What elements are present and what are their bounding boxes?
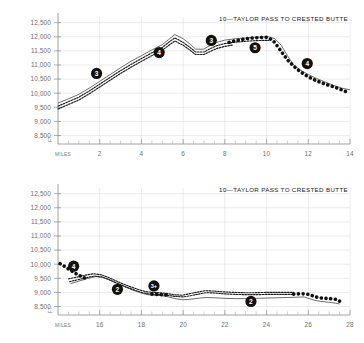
y-tick-label: 12,000 (31, 204, 52, 211)
x-tick-label: 8 (223, 150, 227, 157)
difficulty-marker[interactable]: 3+ (148, 280, 159, 291)
y-tick-label: 9,000 (34, 118, 51, 125)
difficulty-marker[interactable]: 4 (154, 47, 165, 58)
difficulty-marker-label: 5 (253, 44, 257, 51)
difficulty-marker-label: 2 (249, 298, 253, 305)
chart-svg-bottom: 12,50012,00011,50011,00010,50010,0009,50… (0, 171, 364, 343)
difficulty-marker[interactable]: 4 (68, 261, 79, 272)
profile-series-route-dotted-end (294, 294, 340, 301)
chart-title: 10—TAYLOR PASS TO CRESTED BUTTE (219, 186, 348, 193)
difficulty-marker[interactable]: 3 (206, 35, 217, 46)
y-tick-label: 10,500 (31, 75, 52, 82)
difficulty-marker[interactable]: 2 (245, 296, 256, 307)
elevation-profile-page: 12,50012,00011,50011,00010,50010,0009,50… (0, 0, 364, 343)
y-tick-label: 10,000 (31, 261, 52, 268)
y-tick-label: 11,500 (31, 47, 51, 54)
profile-series-ridge-lower-dashed (58, 41, 233, 109)
y-tick-label: 12,500 (31, 190, 52, 197)
y-tick-label: 9,000 (34, 289, 51, 296)
difficulty-marker-label: 2 (116, 286, 120, 293)
y-axis-unit-label: FT. (48, 135, 53, 142)
x-tick-label: 24 (263, 321, 271, 328)
difficulty-marker[interactable]: 5 (250, 42, 261, 53)
x-axis-unit-label: MILES (55, 323, 71, 328)
difficulty-marker[interactable]: 4 (302, 58, 313, 69)
x-tick-label: 10 (263, 150, 271, 157)
y-tick-label: 9,500 (34, 104, 51, 111)
y-tick-label: 10,000 (31, 90, 52, 97)
difficulty-marker[interactable]: 2 (112, 284, 123, 295)
y-tick-label: 11,000 (31, 232, 51, 239)
x-tick-label: 16 (96, 321, 104, 328)
x-tick-label: 6 (181, 150, 185, 157)
chart-panel-bottom: 12,50012,00011,50011,00010,50010,0009,50… (0, 171, 364, 343)
x-tick-label: 14 (346, 150, 354, 157)
difficulty-marker[interactable]: 3 (91, 68, 102, 79)
profile-series-ridge-lower-dashed (69, 276, 293, 297)
x-tick-label: 2 (98, 150, 102, 157)
profile-series-route-dotted-heavy (229, 37, 346, 91)
profile-series-ridge-mid-dashed (58, 38, 269, 106)
difficulty-marker-label: 3 (95, 70, 99, 77)
y-tick-label: 11,500 (31, 218, 51, 225)
x-axis-unit-label: MILES (55, 152, 71, 157)
x-tick-label: 26 (305, 321, 313, 328)
x-tick-label: 12 (305, 150, 313, 157)
chart-title: 10—TAYLOR PASS TO CRESTED BUTTE (219, 15, 348, 22)
difficulty-marker-label: 3 (209, 37, 213, 44)
y-tick-label: 11,000 (31, 61, 51, 68)
difficulty-marker-label: 4 (305, 60, 309, 67)
x-tick-label: 22 (221, 321, 229, 328)
y-tick-label: 9,500 (34, 275, 51, 282)
chart-panel-top: 12,50012,00011,50011,00010,50010,0009,50… (0, 0, 364, 172)
y-tick-label: 10,500 (31, 246, 52, 253)
y-tick-label: 12,500 (31, 19, 52, 26)
y-axis-unit-label: FT. (48, 306, 53, 313)
difficulty-marker-label: 4 (72, 263, 76, 270)
difficulty-marker-label: 3+ (151, 283, 158, 289)
y-tick-label: 12,000 (31, 33, 52, 40)
x-tick-label: 4 (140, 150, 144, 157)
difficulty-marker-label: 4 (157, 49, 161, 56)
x-tick-label: 20 (179, 321, 187, 328)
x-tick-label: 18 (138, 321, 146, 328)
chart-svg-top: 12,50012,00011,50011,00010,50010,0009,50… (0, 0, 364, 172)
x-tick-label: 28 (346, 321, 354, 328)
